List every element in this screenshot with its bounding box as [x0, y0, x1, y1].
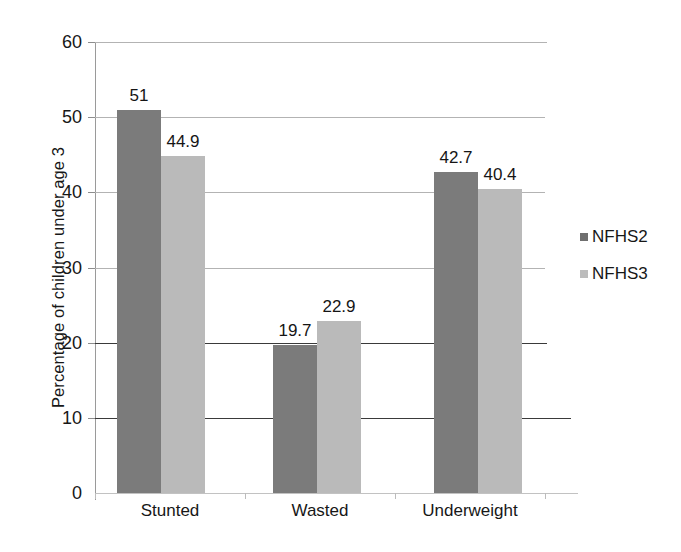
legend-label-nfhs2: NFHS2 [592, 227, 648, 247]
x-tick-mark-2 [395, 493, 396, 499]
x-tick-mark-3 [545, 493, 546, 499]
y-tick-label-30: 30 [36, 259, 82, 277]
x-axis-label-underweight: Underweight [395, 502, 545, 521]
x-tick-mark-1 [245, 493, 246, 499]
y-tick-label-20: 20 [36, 334, 82, 352]
bar-wasted-nfhs2[interactable] [273, 345, 317, 493]
legend-item-nfhs2[interactable]: NFHS2 [580, 218, 648, 255]
bar-stunted-nfhs2[interactable] [117, 110, 161, 493]
x-axis-label-wasted: Wasted [245, 502, 395, 521]
y-tick-mark-30 [88, 268, 95, 269]
x-axis-line [95, 493, 578, 494]
plot-area [95, 42, 545, 493]
gridline-50 [95, 117, 545, 118]
gridline-60 [95, 42, 547, 43]
bar-value-wasted-nfhs2: 19.7 [273, 322, 317, 339]
bar-underweight-nfhs2[interactable] [434, 172, 478, 493]
bar-underweight-nfhs3[interactable] [478, 189, 522, 493]
x-tick-mark-0 [95, 493, 96, 499]
bar-wasted-nfhs3[interactable] [317, 321, 361, 493]
legend-label-nfhs3: NFHS3 [592, 264, 648, 284]
y-tick-label-40: 40 [36, 183, 82, 201]
legend-swatch-icon-nfhs3 [580, 270, 588, 278]
y-tick-label-0: 0 [36, 484, 82, 502]
y-tick-mark-20 [88, 343, 95, 344]
y-tick-label-10: 10 [36, 409, 82, 427]
y-tick-label-60: 60 [36, 33, 82, 51]
legend-swatch-icon-nfhs2 [580, 233, 588, 241]
x-axis-label-stunted: Stunted [95, 502, 245, 521]
bar-value-stunted-nfhs3: 44.9 [161, 133, 205, 150]
bar-value-underweight-nfhs2: 42.7 [434, 149, 478, 166]
chart-legend: NFHS2NFHS3 [580, 218, 648, 292]
bar-value-underweight-nfhs3: 40.4 [478, 166, 522, 183]
legend-item-nfhs3[interactable]: NFHS3 [580, 255, 648, 292]
y-tick-label-50: 50 [36, 108, 82, 126]
y-tick-mark-50 [88, 117, 95, 118]
y-tick-mark-40 [88, 192, 95, 193]
y-tick-mark-10 [88, 418, 95, 419]
bar-value-stunted-nfhs2: 51 [117, 87, 161, 104]
bar-chart: Percentage of children under age 3 01020… [0, 0, 681, 552]
y-tick-mark-60 [88, 42, 95, 43]
bar-value-wasted-nfhs3: 22.9 [317, 298, 361, 315]
bar-stunted-nfhs3[interactable] [161, 156, 205, 493]
